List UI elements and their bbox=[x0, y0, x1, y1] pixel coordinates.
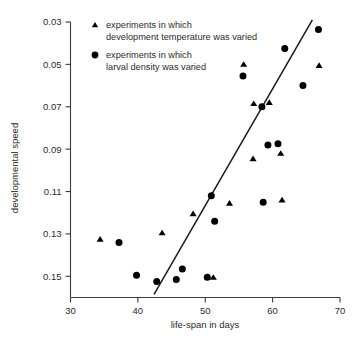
data-point-circle bbox=[264, 141, 271, 148]
data-point-circle bbox=[153, 278, 160, 285]
triangle-icon bbox=[92, 22, 98, 27]
data-point-triangle bbox=[250, 156, 257, 162]
data-point-circle bbox=[281, 45, 288, 52]
data-point-triangle bbox=[279, 197, 286, 203]
legend-entry-1-line1: experiments in which bbox=[106, 50, 192, 60]
data-point-circle bbox=[315, 26, 322, 33]
y-axis-title: developmental speed bbox=[9, 123, 20, 213]
x-axis-title: life-span in days bbox=[171, 319, 240, 330]
data-point-triangle bbox=[190, 211, 197, 217]
data-point-circle bbox=[133, 272, 140, 279]
data-point-triangle bbox=[159, 230, 166, 236]
series-development-temperature bbox=[97, 61, 323, 280]
data-point-circle bbox=[260, 199, 267, 206]
data-point-triangle bbox=[210, 274, 217, 280]
y-tick-label-group: 0.030.050.070.090.110.130.15 bbox=[43, 16, 62, 281]
data-point-circle bbox=[299, 82, 306, 89]
y-tick-group bbox=[66, 22, 71, 276]
x-axis: 3040506070 bbox=[65, 298, 345, 316]
legend-entry-0-line2: development temperature was varied bbox=[106, 32, 257, 42]
y-tick-label: 0.03 bbox=[43, 16, 62, 27]
x-tick-label: 30 bbox=[65, 305, 76, 316]
x-tick-label: 60 bbox=[267, 305, 278, 316]
legend-entry-0-line1: experiments in which bbox=[106, 20, 192, 30]
data-point-circle bbox=[116, 239, 123, 246]
data-point-circle bbox=[239, 73, 246, 80]
data-point-circle bbox=[211, 218, 218, 225]
data-point-circle bbox=[258, 103, 265, 110]
data-point-circle bbox=[179, 265, 186, 272]
x-tick-label-group: 3040506070 bbox=[65, 305, 345, 316]
data-point-triangle bbox=[240, 61, 247, 67]
y-tick-label: 0.13 bbox=[43, 228, 62, 239]
data-point-circle bbox=[208, 192, 215, 199]
legend-entry-1-line2: larval density was varied bbox=[106, 62, 206, 72]
y-tick-label: 0.07 bbox=[43, 101, 62, 112]
y-tick-label: 0.11 bbox=[44, 186, 62, 197]
chart-canvas: 0.030.050.070.090.110.130.15 3040506070 … bbox=[0, 0, 358, 343]
data-point-triangle bbox=[226, 200, 233, 206]
y-tick-label: 0.09 bbox=[43, 144, 62, 155]
data-point-circle bbox=[275, 140, 282, 147]
data-point-triangle bbox=[277, 150, 284, 156]
x-tick-group bbox=[71, 298, 341, 303]
circle-icon bbox=[92, 52, 99, 59]
x-tick-label: 70 bbox=[335, 305, 346, 316]
scatter-plot-figure: 0.030.050.070.090.110.130.15 3040506070 … bbox=[0, 0, 358, 343]
data-point-triangle bbox=[316, 62, 323, 68]
data-point-circle bbox=[173, 276, 180, 283]
y-tick-label: 0.05 bbox=[43, 59, 62, 70]
y-tick-label: 0.15 bbox=[43, 271, 62, 282]
data-point-triangle bbox=[250, 100, 257, 106]
legend: experiments in which development tempera… bbox=[92, 20, 258, 72]
y-axis: 0.030.050.070.090.110.130.15 bbox=[43, 16, 71, 297]
x-tick-label: 50 bbox=[200, 305, 211, 316]
data-point-circle bbox=[204, 274, 211, 281]
x-tick-label: 40 bbox=[133, 305, 144, 316]
data-point-triangle bbox=[97, 236, 104, 242]
